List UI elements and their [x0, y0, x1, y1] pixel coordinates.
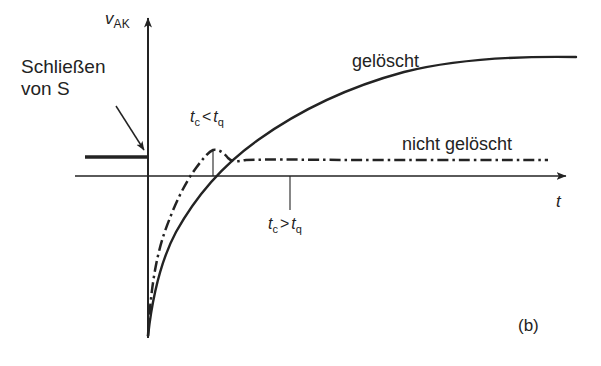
marker-short-operator: < [200, 108, 213, 125]
marker-long-operator: > [278, 215, 291, 232]
y-axis-label: vAK [105, 9, 130, 32]
y-axis-symbol: v [105, 9, 114, 28]
y-axis-subscript: AK [114, 17, 130, 31]
switch-note-line-1: Schließen [21, 56, 106, 78]
marker-label-tc-greater-tq: tc>tq [268, 215, 302, 236]
curve-label-nicht-geloescht: nicht gelöscht [402, 134, 512, 155]
curve-nicht-geloescht [148, 150, 548, 336]
figure-panel-b: Schließen von S vAK t gelöscht nicht gel… [0, 0, 601, 366]
switch-note-arrow [116, 106, 144, 150]
panel-label: (b) [518, 316, 539, 336]
curve-geloescht [148, 57, 576, 336]
marker-long-sub-2: q [296, 223, 302, 235]
switch-note-label: Schließen von S [21, 56, 106, 101]
marker-label-tc-less-tq: tc<tq [190, 108, 224, 129]
marker-short-sub-2: q [218, 116, 224, 128]
thyristor-quenching-diagram [0, 0, 601, 366]
switch-note-line-2: von S [21, 78, 106, 100]
x-axis-label: t [556, 192, 561, 212]
curve-label-geloescht: gelöscht [352, 51, 419, 72]
